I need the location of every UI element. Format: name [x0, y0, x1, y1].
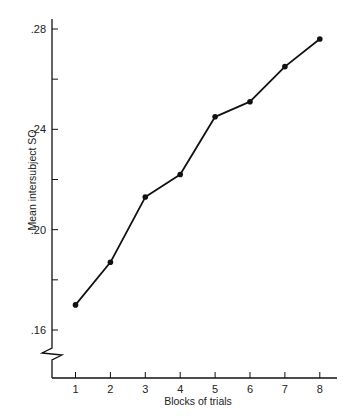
x-tick-label: 1: [72, 383, 78, 395]
x-tick-label: 8: [317, 383, 323, 395]
data-point-marker: [73, 302, 79, 308]
data-point-marker: [282, 64, 288, 70]
x-tick-label: 5: [212, 383, 218, 395]
series-line: [76, 39, 320, 305]
data-point-marker: [247, 99, 253, 105]
x-tick-label: 3: [142, 383, 148, 395]
data-point-marker: [212, 114, 218, 120]
y-tick-label: .28: [31, 23, 46, 35]
x-axis: 12345678: [52, 372, 337, 395]
x-tick-label: 4: [177, 383, 183, 395]
data-point-marker: [108, 259, 114, 265]
data-point-marker: [317, 36, 323, 42]
data-point-marker: [143, 194, 149, 200]
y-axis-title: Mean intersubject SO: [26, 130, 38, 231]
x-tick-label: 2: [107, 383, 113, 395]
data-series: [73, 36, 323, 307]
x-axis-title: Blocks of trials: [164, 395, 232, 407]
y-tick-label: .16: [31, 324, 46, 336]
x-tick-label: 6: [247, 383, 253, 395]
line-chart: .28.24.20.16 12345678 Mean intersubject …: [0, 0, 354, 420]
data-point-marker: [177, 172, 183, 178]
x-tick-label: 7: [282, 383, 288, 395]
